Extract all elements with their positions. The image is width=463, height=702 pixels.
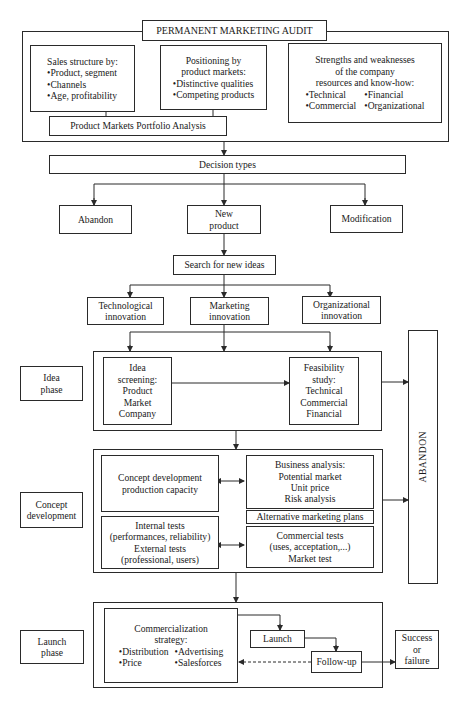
- strategy-item: Price: [122, 657, 142, 668]
- search-ideas-box: Search for new ideas: [173, 255, 276, 275]
- positioning-box: Positioning by product markets: •Distinc…: [160, 45, 267, 110]
- strengths-item: Organizational: [368, 100, 425, 111]
- abandon-box: Abandon: [59, 205, 132, 234]
- alt-plans-text: Alternative marketing plans: [256, 511, 363, 522]
- commercial-tests-line: Commercial tests: [277, 530, 344, 541]
- strategy-item: Salesforces: [178, 657, 222, 668]
- strengths-box: Strengths and weaknesses of the company …: [288, 43, 442, 123]
- alt-marketing-plans-box: Alternative marketing plans: [246, 510, 374, 524]
- strengths-item: Commercial: [309, 100, 356, 111]
- sales-item: Age, profitability: [50, 90, 117, 101]
- abandon-vertical-text: ABANDON: [417, 431, 428, 482]
- portfolio-box: Product Markets Portfolio Analysis: [49, 116, 227, 136]
- innovation-line: Marketing: [210, 300, 250, 311]
- innovation-line: Organizational: [313, 299, 370, 310]
- strategy-heading-line: strategy:: [154, 634, 187, 645]
- idea-phase-label: Idea phase: [20, 366, 83, 401]
- feasibility-line: study:: [312, 374, 335, 385]
- strengths-item: Financial: [368, 89, 404, 100]
- abandon-text: Abandon: [78, 214, 113, 225]
- feasibility-line: Feasibility: [304, 362, 345, 373]
- outcome-line: or: [413, 644, 421, 655]
- search-ideas-text: Search for new ideas: [184, 259, 264, 270]
- commercial-tests-line: (uses, acceptation,...): [270, 541, 351, 552]
- marketing-innovation-box: Marketing innovation: [190, 297, 269, 325]
- launch-text: Launch: [263, 633, 292, 644]
- positioning-heading-1: Positioning by: [186, 55, 242, 66]
- phase-label-line: Idea: [43, 372, 60, 383]
- positioning-item: Distinctive qualities: [176, 78, 253, 89]
- feasibility-line: Commercial: [300, 397, 347, 408]
- strategy-item: Distribution: [122, 646, 168, 657]
- business-analysis-box: Business analysis: Potential market Unit…: [246, 455, 374, 509]
- sales-structure-box: Sales structure by: •Product, segment •C…: [30, 45, 135, 112]
- feasibility-study-box: Feasibility study: Technical Commercial …: [289, 357, 359, 425]
- audit-title: PERMANENT MARKETING AUDIT: [142, 20, 327, 41]
- innovation-line: Technological: [98, 300, 152, 311]
- commercial-tests-line: Market test: [288, 553, 331, 564]
- abandon-vertical-box: ABANDON: [408, 330, 438, 584]
- modification-text: Modification: [341, 213, 391, 224]
- sales-item: Channels: [50, 79, 86, 90]
- launch-box: Launch: [250, 630, 305, 648]
- business-line: Unit price: [291, 482, 330, 493]
- tests-line: External tests: [134, 543, 186, 554]
- strategy-item: Advertising: [178, 646, 223, 657]
- portfolio-text: Product Markets Portfolio Analysis: [70, 120, 206, 131]
- tests-line: (performances, reliability): [110, 531, 211, 542]
- screening-line: Company: [119, 408, 156, 419]
- commercialization-strategy-box: Commercialization strategy: •Distributio…: [104, 608, 238, 683]
- outcome-line: Success: [402, 632, 432, 643]
- strengths-heading-3: resources and know-how:: [316, 77, 415, 88]
- commercial-tests-box: Commercial tests (uses, acceptation,...)…: [246, 526, 374, 568]
- innovation-line: innovation: [321, 310, 362, 321]
- positioning-item: Competing products: [176, 89, 254, 100]
- positioning-heading-2: product markets:: [181, 66, 246, 77]
- audit-title-text: PERMANENT MARKETING AUDIT: [156, 25, 312, 36]
- decision-types-text: Decision types: [199, 159, 256, 170]
- phase-label-line: Launch: [38, 636, 67, 647]
- sales-heading: Sales structure by:: [47, 56, 118, 67]
- phase-label-line: phase: [41, 384, 63, 395]
- concept-dev-box: Concept development production capacity: [101, 455, 219, 512]
- screening-line: Idea: [129, 362, 146, 373]
- follow-up-box: Follow-up: [311, 651, 362, 673]
- strengths-heading-1: Strengths and weaknesses: [315, 54, 415, 65]
- screening-line: Product: [123, 385, 153, 396]
- strengths-item: Technical: [309, 89, 346, 100]
- success-failure-box: Success or failure: [395, 630, 439, 669]
- new-product-box: New product: [187, 205, 261, 234]
- concept-development-label: Concept development: [20, 492, 83, 528]
- tests-line: (professional, users): [121, 554, 199, 565]
- launch-phase-label: Launch phase: [20, 630, 84, 664]
- innovation-line: innovation: [105, 311, 146, 322]
- feasibility-line: Financial: [306, 408, 342, 419]
- idea-screening-box: Idea screening: Product Market Company: [103, 357, 172, 425]
- screening-line: screening:: [118, 374, 157, 385]
- sales-item: Product, segment: [50, 67, 117, 78]
- business-line: Business analysis:: [275, 459, 345, 470]
- concept-dev-line: production capacity: [122, 484, 198, 495]
- feasibility-line: Technical: [305, 385, 342, 396]
- tests-box: Internal tests (performances, reliabilit…: [101, 516, 219, 569]
- screening-line: Market: [124, 397, 152, 408]
- phase-label-line: phase: [41, 647, 63, 658]
- new-product-line: New: [215, 208, 233, 219]
- tests-line: Internal tests: [135, 520, 184, 531]
- modification-box: Modification: [330, 205, 403, 233]
- concept-dev-line: Concept development: [118, 472, 202, 483]
- business-line: Risk analysis: [285, 493, 336, 504]
- new-product-line: product: [209, 220, 238, 231]
- follow-up-text: Follow-up: [317, 656, 357, 667]
- business-line: Potential market: [278, 471, 341, 482]
- phase-label-line: Concept: [36, 499, 68, 510]
- strengths-heading-2: of the company: [335, 66, 395, 77]
- technological-innovation-box: Technological innovation: [87, 297, 164, 325]
- innovation-line: innovation: [209, 311, 250, 322]
- organizational-innovation-box: Organizational innovation: [302, 296, 381, 324]
- outcome-line: failure: [404, 655, 429, 666]
- phase-label-line: development: [27, 510, 77, 521]
- decision-types-box: Decision types: [49, 155, 406, 174]
- strategy-heading-line: Commercialization: [134, 623, 208, 634]
